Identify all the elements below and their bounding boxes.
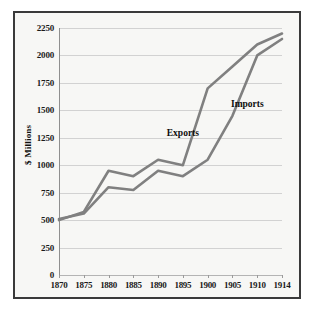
y-tick-label: 750	[41, 188, 54, 198]
x-tick-label: 1880	[100, 280, 117, 290]
x-tick-mark	[84, 275, 85, 278]
plot-area: 0250500750100012501500175020002250 18701…	[59, 28, 282, 275]
series-lines	[59, 28, 282, 275]
y-tick-label: 1000	[37, 160, 54, 170]
y-tick-label: 500	[41, 215, 54, 225]
x-tick-label: 1900	[199, 280, 216, 290]
y-tick-label: 2250	[37, 23, 54, 33]
x-tick-mark	[133, 275, 134, 278]
y-tick-label: 0	[50, 270, 54, 280]
x-tick-mark	[282, 275, 283, 278]
chart-inner: $ Millions 02505007501000125015001750200…	[15, 13, 299, 297]
x-tick-label: 1875	[75, 280, 92, 290]
y-tick-label: 2000	[37, 50, 54, 60]
x-tick-label: 1895	[174, 280, 191, 290]
y-tick-label: 1500	[37, 105, 54, 115]
x-tick-mark	[59, 275, 60, 278]
y-axis-title: $ Millions	[23, 125, 33, 165]
x-tick-mark	[158, 275, 159, 278]
x-tick-label: 1905	[224, 280, 241, 290]
x-tick-mark	[109, 275, 110, 278]
x-tick-mark	[257, 275, 258, 278]
series-label-imports: Imports	[231, 99, 264, 109]
chart-frame: $ Millions 02505007501000125015001750200…	[13, 11, 301, 299]
x-tick-label: 1885	[125, 280, 142, 290]
x-tick-label: 1914	[274, 280, 291, 290]
x-tick-label: 1910	[249, 280, 266, 290]
x-tick-mark	[183, 275, 184, 278]
y-tick-label: 1250	[37, 133, 54, 143]
gridline	[59, 275, 282, 276]
series-label-exports: Exports	[167, 128, 199, 138]
series-line-exports	[59, 33, 282, 220]
y-tick-label: 250	[41, 243, 54, 253]
x-tick-mark	[208, 275, 209, 278]
x-tick-mark	[232, 275, 233, 278]
x-tick-label: 1890	[150, 280, 167, 290]
x-tick-label: 1870	[51, 280, 68, 290]
y-tick-label: 1750	[37, 78, 54, 88]
